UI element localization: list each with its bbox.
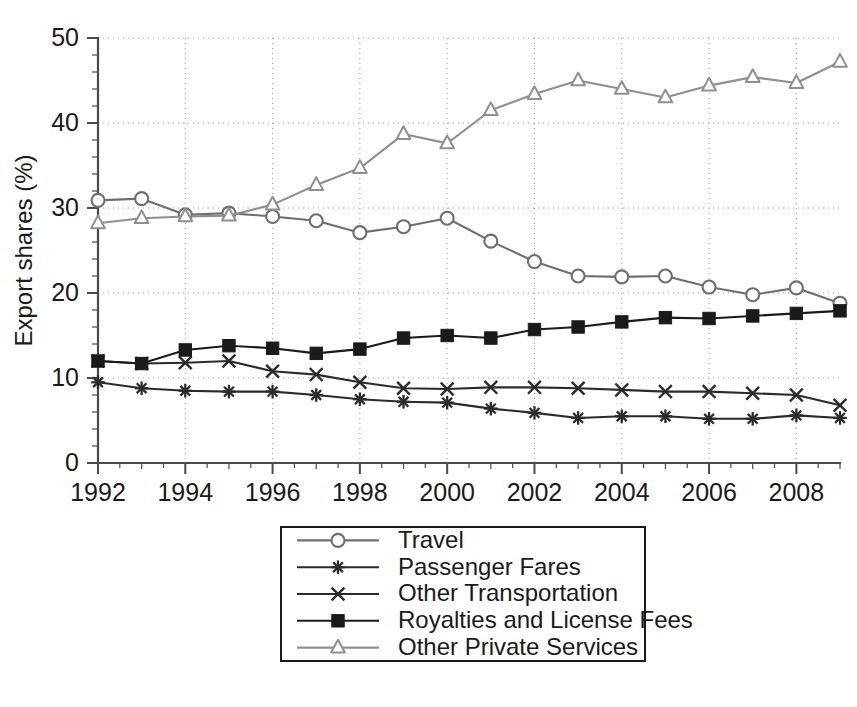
data-point-marker <box>332 534 345 547</box>
series-1 <box>91 375 847 425</box>
y-tick-label: 40 <box>51 108 79 136</box>
data-point-marker <box>135 210 149 223</box>
data-point-marker <box>354 343 366 355</box>
x-tick-label: 2008 <box>769 478 825 506</box>
y-axis: 01020304050 <box>51 23 98 476</box>
data-point-marker <box>222 385 236 399</box>
data-point-marker <box>572 321 584 333</box>
data-point-marker <box>309 388 323 402</box>
data-point-marker <box>484 235 497 248</box>
series-3 <box>92 305 846 370</box>
data-point-marker <box>659 409 673 423</box>
data-point-marker <box>528 323 540 335</box>
data-point-marker <box>528 406 542 420</box>
data-point-marker <box>571 73 585 86</box>
data-point-marker <box>659 270 672 283</box>
x-tick-label: 1996 <box>245 478 301 506</box>
series-2 <box>92 355 847 412</box>
chart-figure: 01020304050 1992199419961998200020022004… <box>0 0 857 707</box>
grid-lines <box>98 38 840 463</box>
data-point-marker <box>572 270 585 283</box>
x-tick-label: 2002 <box>507 478 563 506</box>
x-axis: 199219941996199820002002200420062008 <box>70 463 840 506</box>
data-point-marker <box>92 355 104 367</box>
data-point-marker <box>746 69 760 82</box>
data-point-marker <box>746 412 760 426</box>
data-point-marker <box>178 384 192 398</box>
legend-label: Other Private Services <box>398 633 638 660</box>
data-point-marker <box>331 560 345 574</box>
data-point-marker <box>332 615 344 627</box>
y-axis-title: Export shares (%) <box>10 154 37 346</box>
data-point-marker <box>223 340 235 352</box>
data-point-marker <box>790 281 803 294</box>
y-tick-label: 10 <box>51 363 79 391</box>
data-point-marker <box>266 385 280 399</box>
data-point-marker <box>353 226 366 239</box>
x-tick-label: 2006 <box>681 478 737 506</box>
data-point-marker <box>615 270 628 283</box>
data-point-marker <box>790 409 804 423</box>
y-tick-label: 20 <box>51 278 79 306</box>
data-point-marker <box>353 160 367 173</box>
data-point-marker <box>747 310 759 322</box>
data-point-marker <box>746 288 759 301</box>
legend-label: Other Transportation <box>398 579 618 606</box>
data-point-marker <box>266 210 279 223</box>
series-4 <box>91 54 847 228</box>
data-point-marker <box>833 411 847 425</box>
legend-label: Travel <box>398 526 464 553</box>
x-tick-label: 2000 <box>419 478 475 506</box>
data-point-marker <box>179 344 191 356</box>
data-point-marker <box>397 332 409 344</box>
data-point-marker <box>135 381 149 395</box>
legend-label: Passenger Fares <box>398 553 581 580</box>
data-point-marker <box>266 342 278 354</box>
data-series-group <box>91 54 847 426</box>
data-point-marker <box>571 411 585 425</box>
data-point-marker <box>485 332 497 344</box>
data-point-marker <box>616 316 628 328</box>
legend-label: Royalties and License Fees <box>398 606 693 633</box>
data-point-marker <box>484 402 498 416</box>
line-chart-canvas: 01020304050 1992199419961998200020022004… <box>0 0 857 707</box>
chart-legend: TravelPassenger FaresOther Transportatio… <box>281 526 693 661</box>
data-point-marker <box>834 305 846 317</box>
x-tick-label: 2004 <box>594 478 650 506</box>
data-point-marker <box>659 311 671 323</box>
x-tick-label: 1992 <box>70 478 126 506</box>
data-point-marker <box>441 212 454 225</box>
data-point-marker <box>703 281 716 294</box>
data-point-marker <box>397 220 410 233</box>
data-point-marker <box>528 255 541 268</box>
data-point-marker <box>703 312 715 324</box>
x-tick-label: 1994 <box>157 478 213 506</box>
data-point-marker <box>440 396 454 410</box>
y-axis-title-label: Export shares (%) <box>10 154 37 346</box>
data-point-marker <box>397 126 411 139</box>
series-0 <box>92 192 847 310</box>
data-point-marker <box>135 192 148 205</box>
y-tick-label: 0 <box>65 448 79 476</box>
data-point-marker <box>310 214 323 227</box>
data-point-marker <box>833 54 847 67</box>
data-point-marker <box>615 409 629 423</box>
data-point-marker <box>702 412 716 426</box>
y-tick-label: 30 <box>51 193 79 221</box>
data-point-marker <box>790 307 802 319</box>
data-point-marker <box>310 347 322 359</box>
y-tick-label: 50 <box>51 23 79 51</box>
data-point-marker <box>92 194 105 207</box>
data-point-marker <box>91 375 105 389</box>
data-point-marker <box>397 395 411 409</box>
x-tick-label: 1998 <box>332 478 388 506</box>
data-point-marker <box>135 357 147 369</box>
data-point-marker <box>353 392 367 406</box>
data-point-marker <box>441 329 453 341</box>
